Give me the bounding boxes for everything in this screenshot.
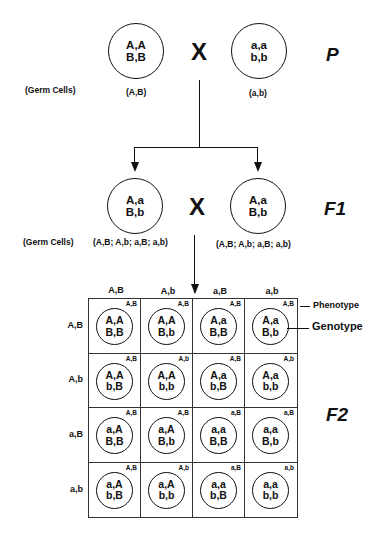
punnett-cell: A,BA,ab,B — [193, 354, 245, 409]
p-parent1-circle: A,A B,B — [108, 23, 164, 79]
genotype-line: A,a — [249, 194, 268, 206]
p-germ-cells-label: (Germ Cells) — [25, 85, 76, 95]
phenotype-label: a,B — [231, 409, 241, 416]
genotype: A,aB,B — [209, 315, 227, 337]
genotype-line: b,B — [106, 490, 123, 501]
genotype-circle: a,AB,b — [148, 417, 185, 454]
genotype-line: b,B — [210, 490, 227, 501]
punnett-cell: a,Ba,ab,B — [193, 463, 245, 518]
genotype: a,Ab,B — [106, 479, 123, 501]
genotype-circle: A,ab,B — [200, 363, 237, 400]
genotype-line: B,b — [158, 436, 175, 447]
genotype-line: a,A — [105, 424, 123, 435]
punnett-cell: A,Ba,AB,b — [141, 408, 193, 463]
p-parent2-genotype: a,a b,b — [250, 39, 267, 63]
phenotype-label: A,b — [179, 355, 189, 362]
column-header: A,B — [90, 285, 142, 295]
phenotype-label: A,B — [178, 300, 189, 307]
phenotype-label: a,b — [285, 464, 294, 471]
punnett-cell: A,ba,Ab,b — [141, 463, 193, 518]
punnett-square: A,BA,AB,BA,BA,AB,bA,BA,aB,BA,BA,aB,bA,BA… — [88, 298, 298, 518]
genotype-circle: A,AB,b — [148, 308, 185, 345]
genotype-circle: A,Ab,b — [148, 363, 185, 400]
genotype-line: B,b — [249, 206, 268, 218]
f1-parent2-gamete: (A,B; A,b; a,B; a,b) — [216, 239, 291, 249]
p-generation-label: P — [326, 44, 339, 66]
punnett-cell: a,ba,ab,b — [245, 463, 297, 518]
punnett-cell: A,BA,AB,b — [141, 299, 193, 354]
punnett-cell: A,BA,Ab,B — [89, 354, 141, 409]
genotype-line: B,b — [262, 436, 279, 447]
phenotype-label: A,B — [126, 300, 137, 307]
f1-generation-label: F1 — [324, 198, 346, 220]
phenotype-label: A,b — [179, 464, 189, 471]
genotype-circle: a,ab,B — [200, 472, 237, 509]
genotype-line: A,A — [157, 315, 175, 326]
column-header: a,B — [194, 286, 246, 296]
genotype-line: A,a — [262, 315, 279, 326]
genotype-circle: a,aB,B — [200, 417, 237, 454]
genotype-line: b,b — [250, 51, 267, 63]
genotype: A,AB,B — [105, 315, 123, 337]
f1-cross-symbol: X — [189, 193, 205, 221]
punnett-cell: A,bA,Ab,b — [141, 354, 193, 409]
f1-parent2-genotype: A,a B,b — [249, 194, 268, 218]
punnett-cell: A,BA,aB,B — [193, 299, 245, 354]
genotype: a,AB,B — [105, 424, 123, 446]
punnett-cell: A,BA,AB,B — [89, 299, 141, 354]
phenotype-label: A,B — [230, 300, 241, 307]
genotype-circle: A,aB,B — [200, 308, 237, 345]
row-header: A,B — [53, 320, 83, 330]
p-parent1-gamete: (A,B) — [126, 87, 146, 97]
phenotype-label: A,B — [283, 300, 294, 307]
genotype-circle: A,Ab,B — [96, 363, 133, 400]
phenotype-label: A,B — [178, 409, 189, 416]
genotype-circle: A,aB,b — [252, 308, 289, 345]
genotype-line: A,A — [126, 39, 146, 51]
genotype-line: B,B — [105, 436, 123, 447]
genotype-circle: A,ab,b — [252, 363, 289, 400]
genotype-line: a,a — [250, 39, 267, 51]
genotype-line: b,B — [210, 381, 227, 392]
p-cross-symbol: X — [191, 38, 207, 66]
genotype-line: B,B — [209, 436, 227, 447]
genotype-line: B,b — [157, 327, 175, 338]
genotype: A,Ab,b — [157, 370, 175, 392]
genotype-line: B,b — [126, 206, 145, 218]
punnett-cell: a,Ba,aB,b — [245, 408, 297, 463]
genotype-line: B,B — [209, 327, 227, 338]
phenotype-label: A,B — [126, 464, 137, 471]
genotype-line: b,b — [158, 490, 174, 501]
branch-horizontal-line — [134, 147, 258, 148]
genotype-line: b,b — [262, 381, 278, 392]
genotype: a,aB,B — [209, 424, 227, 446]
genotype: A,ab,b — [262, 370, 278, 392]
genotype-line: a,a — [209, 424, 227, 435]
genotype: a,ab,b — [263, 479, 279, 501]
genotype-line: B,b — [262, 327, 279, 338]
phenotype-label: A,B — [230, 355, 241, 362]
genotype-line: A,a — [126, 194, 145, 206]
punnett-cell: a,Ba,aB,B — [193, 408, 245, 463]
genotype-circle: a,AB,B — [96, 417, 133, 454]
genotype-line: A,a — [209, 315, 227, 326]
genotype-callout-line — [287, 328, 309, 329]
arrow-down-icon — [254, 162, 262, 172]
genotype: a,aB,b — [262, 424, 279, 446]
arrow-down-icon — [131, 162, 139, 172]
phenotype-label: a,B — [231, 464, 241, 471]
row-header: A,b — [53, 374, 83, 384]
phenotype-label: A,B — [126, 409, 137, 416]
genotype-annotation: Genotype — [312, 320, 363, 332]
phenotype-callout-line — [300, 306, 310, 307]
genotype: a,Ab,b — [158, 479, 174, 501]
genotype-line: b,B — [105, 381, 123, 392]
genotype-line: a,A — [158, 424, 175, 435]
genotype-circle: a,Ab,B — [96, 472, 133, 509]
phenotype-annotation: Phenotype — [313, 300, 359, 310]
row-header: a,B — [53, 429, 83, 439]
genotype-line: B,B — [126, 51, 146, 63]
punnett-cell: A,Ba,AB,B — [89, 408, 141, 463]
f1-parent2-circle: A,a B,b — [230, 178, 286, 234]
f1-parent1-circle: A,a B,b — [107, 178, 163, 234]
